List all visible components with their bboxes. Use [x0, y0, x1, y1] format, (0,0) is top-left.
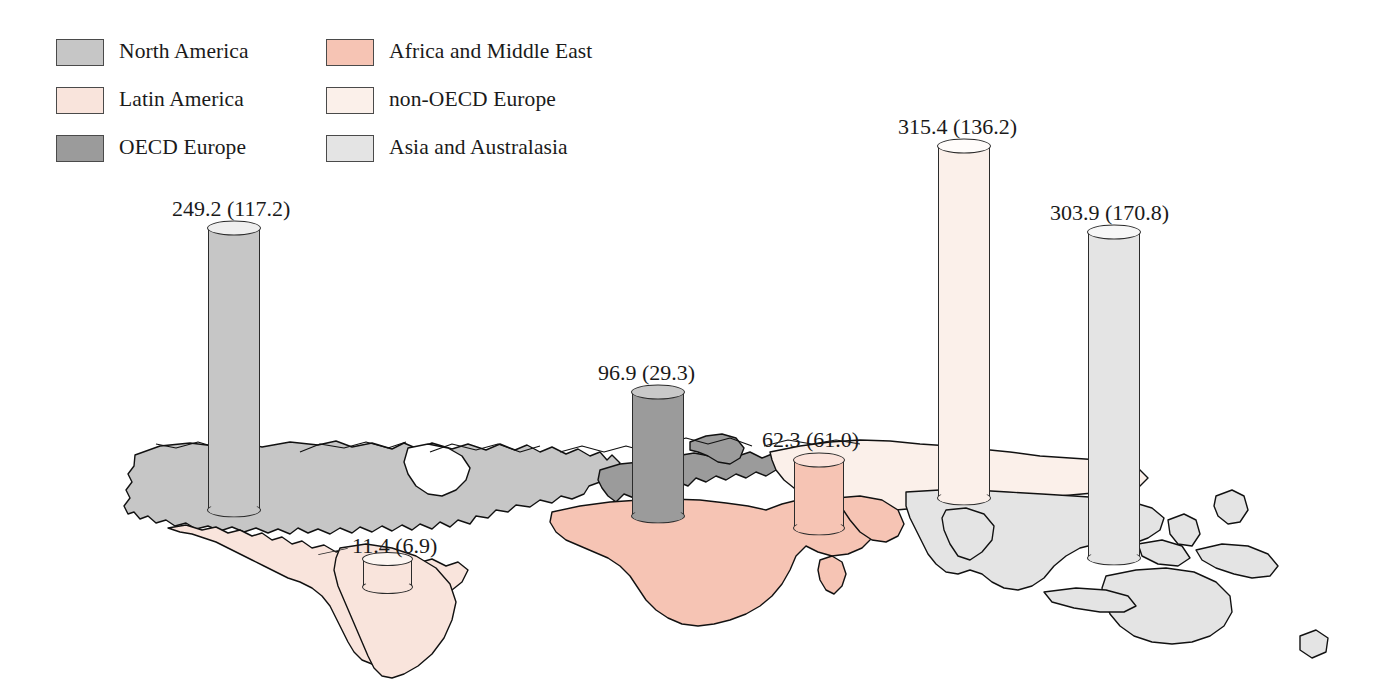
legend-item-north-america[interactable]: North America	[56, 39, 326, 66]
legend-swatch-non-oecd-europe	[326, 87, 374, 114]
legend-item-latin-america[interactable]: Latin America	[56, 87, 326, 114]
cylinder-africa-middle-east[interactable]	[794, 460, 844, 528]
cylinder-body-north-america	[208, 228, 260, 510]
legend-swatch-north-america	[56, 39, 104, 66]
cylinder-base-non-oecd-europe	[937, 491, 990, 506]
cylinder-north-america[interactable]	[208, 228, 260, 510]
cylinder-body-asia-australasia	[1088, 232, 1140, 558]
legend: North America Africa and Middle East Lat…	[56, 28, 656, 172]
legend-row: North America Africa and Middle East	[56, 28, 656, 76]
map-region-north-america	[124, 441, 620, 534]
cylinder-latin-america[interactable]	[363, 559, 412, 587]
map-region-new-guinea	[1196, 544, 1278, 578]
cylinder-body-non-oecd-europe	[938, 146, 990, 498]
map-region-indonesia-2	[1138, 540, 1190, 566]
cylinder-label-asia-australasia: 303.9 (170.8)	[1050, 202, 1169, 224]
cylinder-body-africa-middle-east	[794, 460, 844, 528]
cylinder-label-non-oecd-europe: 315.4 (136.2)	[898, 116, 1017, 138]
cylinder-base-africa-middle-east	[793, 521, 844, 536]
legend-label-asia-australasia: Asia and Australasia	[389, 137, 568, 159]
map-region-arabia	[836, 496, 904, 542]
cylinder-base-oecd-europe	[631, 509, 684, 524]
map-region-japan	[1214, 490, 1248, 524]
map-region-nz	[1300, 630, 1328, 658]
legend-swatch-latin-america	[56, 87, 104, 114]
legend-label-non-oecd-europe: non-OECD Europe	[389, 89, 556, 111]
cylinder-top-oecd-europe	[631, 385, 684, 400]
cylinder-top-africa-middle-east	[793, 453, 844, 468]
cylinder-base-asia-australasia	[1087, 551, 1140, 566]
cylinder-body-oecd-europe	[632, 392, 684, 516]
map-region-australia	[1102, 568, 1232, 644]
cylinder-label-latin-america: 11.4 (6.9)	[352, 535, 437, 557]
cylinder-base-latin-america	[362, 580, 412, 594]
legend-swatch-oecd-europe	[56, 135, 104, 162]
map-region-india	[942, 508, 994, 560]
map-coastline-detail	[156, 438, 860, 452]
legend-label-north-america: North America	[119, 41, 249, 63]
cylinder-label-north-america: 249.2 (117.2)	[172, 198, 290, 220]
legend-swatch-asia-australasia	[326, 135, 374, 162]
map-region-oecd-europe	[598, 452, 780, 502]
cylinder-top-asia-australasia	[1087, 225, 1140, 240]
legend-row: Latin America non-OECD Europe	[56, 76, 656, 124]
legend-row: OECD Europe Asia and Australasia	[56, 124, 656, 172]
cylinder-asia-australasia[interactable]	[1088, 232, 1140, 558]
legend-label-latin-america: Latin America	[119, 89, 244, 111]
map-region-indonesia-1	[1044, 588, 1136, 612]
legend-item-oecd-europe[interactable]: OECD Europe	[56, 135, 326, 162]
cylinder-oecd-europe[interactable]	[632, 392, 684, 516]
cylinder-non-oecd-europe[interactable]	[938, 146, 990, 498]
legend-item-non-oecd-europe[interactable]: non-OECD Europe	[326, 87, 656, 114]
map-region-philippines	[1168, 514, 1200, 546]
legend-label-africa-middle-east: Africa and Middle East	[389, 41, 592, 63]
map-region-oecd-europe-scandinavia	[690, 434, 744, 464]
cylinder-label-oecd-europe: 96.9 (29.3)	[598, 362, 695, 384]
cylinder-base-north-america	[207, 503, 260, 518]
cylinder-label-africa-middle-east: 62.3 (61.0)	[762, 429, 859, 451]
cylinder-top-north-america	[207, 221, 260, 236]
chart-canvas: North America Africa and Middle East Lat…	[0, 0, 1400, 681]
legend-item-asia-australasia[interactable]: Asia and Australasia	[326, 135, 656, 162]
map-region-madagascar	[818, 556, 846, 594]
legend-swatch-africa-middle-east	[326, 39, 374, 66]
map-region-greenland	[404, 444, 470, 496]
cylinder-leader-latin-america	[318, 548, 348, 555]
legend-item-africa-middle-east[interactable]: Africa and Middle East	[326, 39, 656, 66]
legend-label-oecd-europe: OECD Europe	[119, 137, 246, 159]
cylinder-top-non-oecd-europe	[937, 139, 990, 154]
